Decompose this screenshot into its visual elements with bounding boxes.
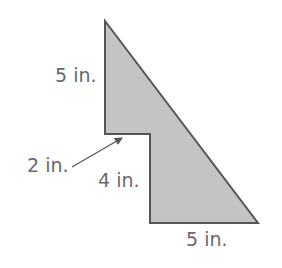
label-left-top-side: 5 in.	[55, 64, 97, 86]
label-bottom-side: 5 in.	[186, 228, 228, 250]
step-width-arrow	[72, 138, 122, 167]
label-step-width: 2 in.	[27, 154, 69, 176]
composite-figure-diagram: 5 in. 2 in. 4 in. 5 in.	[0, 0, 282, 268]
shaded-figure	[105, 21, 258, 223]
label-step-height: 4 in.	[98, 169, 140, 191]
